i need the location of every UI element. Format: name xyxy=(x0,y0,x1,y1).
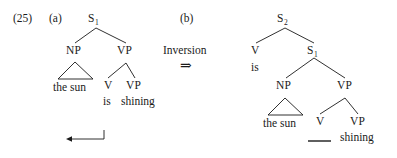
branch-b-s1-np xyxy=(286,58,314,78)
terminal-a-shining: shining xyxy=(121,96,155,108)
node-b-s1-subscript: 1 xyxy=(314,50,318,59)
terminal-b-is: is xyxy=(251,62,259,74)
node-a-vp: VP xyxy=(117,45,132,57)
node-b-root-s2-subscript: 2 xyxy=(284,18,288,27)
node-a-vp-inner: VP xyxy=(126,80,141,92)
operation-double-arrow-icon: ⇒ xyxy=(180,59,192,73)
branch-a-vp-vp xyxy=(126,63,135,78)
node-a-root-s1-text: S xyxy=(88,12,95,24)
branch-b-s1-vp xyxy=(314,58,345,78)
terminal-a-is: is xyxy=(103,96,111,108)
node-b-s1-text: S xyxy=(307,44,314,56)
node-b-root-s2: S2 xyxy=(277,13,288,25)
example-number: (25) xyxy=(13,13,32,25)
branch-b-s2-s1 xyxy=(285,28,314,43)
node-a-root-s1-subscript: 1 xyxy=(95,18,99,27)
node-a-root-s1: S1 xyxy=(88,13,99,25)
triangle-b-np-the-sun xyxy=(268,98,303,115)
branch-b-s2-v xyxy=(256,28,285,43)
operation-label: Inversion xyxy=(163,45,206,57)
subfigure-label-b: (b) xyxy=(180,13,193,25)
node-b-v: V xyxy=(251,45,260,57)
node-b-vp-inner: VP xyxy=(350,116,365,128)
node-b-v-inner: V xyxy=(316,116,325,128)
terminal-b-the-sun: the sun xyxy=(263,118,296,130)
syntax-tree-figure: (25) (a) (b) S1 NP VP the sun V VP is sh… xyxy=(0,0,397,158)
branch-b-vp-vp xyxy=(345,98,358,114)
terminal-a-the-sun: the sun xyxy=(53,82,86,94)
branch-a-s1-vp xyxy=(96,28,126,43)
branch-a-s1-np xyxy=(75,28,96,43)
node-b-s1: S1 xyxy=(307,45,318,57)
triangle-a-np-the-sun xyxy=(58,62,93,79)
movement-arrow-a-path xyxy=(69,130,104,139)
subfigure-label-a: (a) xyxy=(49,13,62,25)
terminal-b-shining: shining xyxy=(340,132,374,144)
node-b-np: NP xyxy=(276,80,291,92)
node-b-root-s2-text: S xyxy=(277,12,284,24)
node-a-np: NP xyxy=(66,45,81,57)
node-a-v: V xyxy=(104,80,113,92)
branch-a-vp-v xyxy=(108,63,126,78)
branch-b-vp-v xyxy=(320,98,345,114)
terminal-b-trace xyxy=(308,132,320,144)
movement-arrow-a-head xyxy=(66,136,72,142)
node-b-vp: VP xyxy=(337,80,352,92)
